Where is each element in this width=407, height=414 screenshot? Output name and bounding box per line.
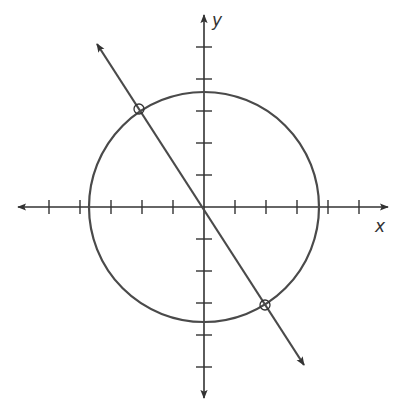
x-axis-label: x [374,216,386,236]
coordinate-diagram: x y [0,0,407,414]
y-axis-label: y [211,10,223,30]
